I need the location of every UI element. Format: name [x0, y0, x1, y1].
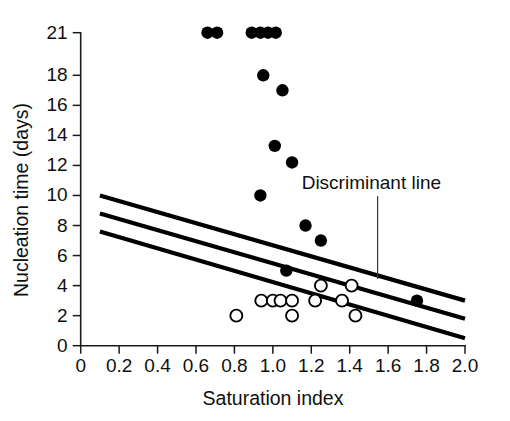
scatter-plot-canvas: 02468101214161821 00.20.40.60.81.01.21.4…: [0, 0, 510, 421]
data-point-open: [336, 295, 348, 307]
data-point-open: [286, 310, 298, 322]
y-tick-label: 21: [47, 22, 68, 43]
data-point-filled: [276, 84, 288, 96]
data-point-filled: [315, 234, 327, 246]
x-tick-label: 1.2: [298, 355, 324, 376]
y-tick-label: 10: [47, 184, 68, 205]
y-tick-label: 16: [47, 94, 68, 115]
discriminant-line-label: Discriminant line: [302, 172, 441, 193]
data-point-filled: [254, 189, 266, 201]
x-tick-label: 0: [75, 355, 86, 376]
data-point-open: [275, 295, 287, 307]
y-axis-title: Nucleation time (days): [10, 103, 32, 297]
x-axis-title: Saturation index: [203, 387, 344, 409]
x-tick-label: 1.4: [336, 355, 363, 376]
x-tick-label: 1.0: [260, 355, 286, 376]
y-tick-label: 4: [57, 275, 68, 296]
data-point-open: [346, 280, 358, 292]
x-tick-label: 2.0: [452, 355, 478, 376]
data-point-filled: [411, 294, 423, 306]
data-point-filled: [299, 219, 311, 231]
data-point-open: [255, 295, 267, 307]
x-tick-label: 0.6: [183, 355, 209, 376]
y-tick-label: 8: [57, 215, 68, 236]
x-tick-label: 1.8: [413, 355, 439, 376]
x-tick-label: 0.8: [221, 355, 247, 376]
data-point-open: [230, 310, 242, 322]
figure-root: 02468101214161821 00.20.40.60.81.01.21.4…: [0, 0, 510, 421]
data-point-filled: [211, 27, 223, 39]
data-point-open: [315, 280, 327, 292]
y-tick-label: 18: [47, 64, 68, 85]
data-point-open: [286, 295, 298, 307]
x-tick-label: 0.4: [144, 355, 171, 376]
x-tick-label: 0.2: [106, 355, 132, 376]
data-point-filled: [280, 264, 292, 276]
data-point-filled: [269, 140, 281, 152]
data-point-filled: [286, 156, 298, 168]
y-tick-label: 14: [47, 124, 69, 145]
data-point-open: [349, 310, 361, 322]
y-tick-label: 0: [57, 335, 68, 356]
data-point-filled: [257, 69, 269, 81]
data-point-filled: [270, 27, 282, 39]
y-tick-label: 12: [47, 154, 68, 175]
y-tick-label: 6: [57, 245, 68, 266]
y-tick-label: 2: [57, 305, 68, 326]
data-point-open: [309, 295, 321, 307]
x-tick-label: 1.6: [375, 355, 401, 376]
